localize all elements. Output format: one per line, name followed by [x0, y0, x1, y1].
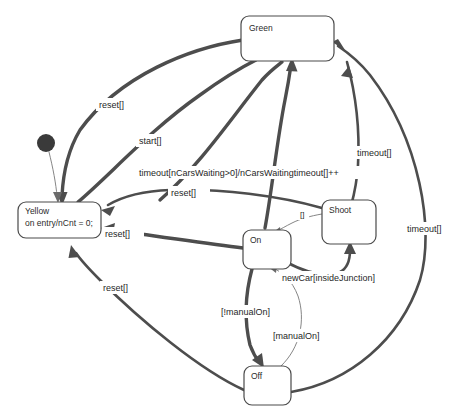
transition-yellow-to-green-start[interactable] — [78, 54, 264, 203]
edge-label-on-yellow-reset: reset[] — [102, 227, 144, 240]
edge-path — [160, 62, 282, 200]
state-node-on[interactable]: On — [243, 230, 291, 269]
edge-label-yellow-green-start: start[] — [136, 134, 175, 147]
edge-label-text: newCar[insideJunction] — [282, 273, 375, 283]
edge-label-green-shoot-timeout: timeout[] — [354, 146, 406, 159]
edge-label-text: reset[] — [105, 229, 130, 239]
edge-label-text: timeout[] — [357, 148, 392, 158]
initial-state-dot[interactable] — [37, 134, 55, 152]
edge-label-text: [] — [300, 210, 304, 219]
edge-label-text: timeout[] — [407, 224, 442, 234]
arrowhead — [341, 66, 353, 78]
edge-label-off-green-timeout: timeout[] — [404, 222, 456, 235]
state-node-off[interactable]: Off — [244, 366, 291, 405]
edge-label-text: reset[] — [171, 188, 196, 198]
state-name-on: On — [250, 235, 262, 245]
transition-shoot-to-yellow-reset[interactable] — [101, 190, 322, 216]
edge-label-off-on: [manualOn] — [270, 329, 328, 342]
state-name-off: Off — [251, 371, 263, 381]
state-machine-diagram: Green Yellow on entry/nCnt = 0; On Shoot… — [0, 0, 456, 419]
state-node-shoot[interactable]: Shoot — [322, 200, 376, 244]
arrowhead — [101, 206, 115, 216]
edge-label-yellow-green-timeout: timeout[nCarsWaiting>0]/nCarsWaitingtime… — [136, 166, 368, 179]
edge-label-layer: reset[] start[] timeout[nCarsWaiting>0]/… — [96, 98, 456, 342]
edge-path — [78, 60, 256, 202]
edge-label-text: [manualOn] — [273, 331, 320, 341]
transition-on-to-off[interactable] — [246, 269, 264, 368]
edge-label-text: start[] — [139, 136, 162, 146]
edge-label-off-yellow-reset: reset[] — [100, 281, 142, 294]
edge-label-on-off: [!manualOn] — [218, 305, 280, 318]
transition-green-to-yellow-reset[interactable] — [57, 40, 244, 206]
edge-label-text: reset[] — [103, 283, 128, 293]
state-name-yellow: Yellow — [25, 206, 50, 216]
transition-on-to-green[interactable] — [265, 57, 298, 228]
edge-path — [347, 62, 359, 206]
node-layer: Green Yellow on entry/nCnt = 0; On Shoot… — [18, 16, 376, 405]
state-diagram-canvas: Green Yellow on entry/nCnt = 0; On Shoot… — [0, 0, 456, 419]
state-body-yellow: on entry/nCnt = 0; — [25, 218, 93, 228]
edge-label-on-shoot-newcar: newCar[insideJunction] — [279, 271, 392, 284]
edge-label-text: timeout[nCarsWaiting>0]/nCarsWaitingtime… — [139, 168, 339, 178]
transition-initial-to-yellow[interactable] — [49, 152, 62, 203]
edge-path — [265, 65, 291, 228]
transition-off-to-yellow-reset[interactable] — [69, 245, 245, 390]
edge-label-text: [!manualOn] — [221, 307, 270, 317]
transition-on-to-shoot-newcar[interactable] — [286, 241, 356, 274]
edge-label-green-yellow-reset: reset[] — [96, 98, 138, 111]
edge-label-shoot-yellow-reset: reset[] — [168, 186, 210, 199]
edge-label-text: reset[] — [99, 100, 124, 110]
state-node-yellow[interactable]: Yellow on entry/nCnt = 0; — [18, 202, 101, 238]
state-node-green[interactable]: Green — [241, 16, 334, 61]
edge-label-shoot-on: [] — [298, 208, 309, 220]
edge-path — [286, 250, 350, 274]
edge-path — [76, 253, 244, 390]
arrowhead — [69, 245, 81, 258]
state-name-green: Green — [249, 23, 273, 33]
state-name-shoot: Shoot — [329, 205, 352, 215]
edge-path — [49, 152, 57, 196]
edge-path — [108, 190, 322, 208]
